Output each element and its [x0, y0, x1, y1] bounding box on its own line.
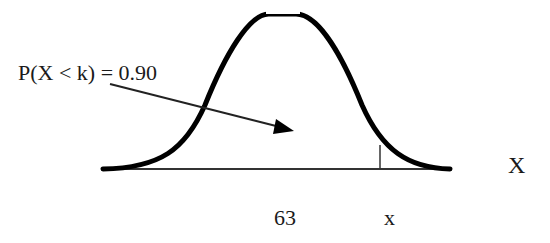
mean-tick-label: 63 — [274, 205, 296, 231]
k-tick-label: x — [384, 205, 395, 231]
probability-annotation: P(X < k) = 0.90 — [18, 60, 157, 86]
axis-label: X — [508, 152, 525, 179]
bell-curve — [103, 14, 450, 169]
arrow-head-icon — [273, 119, 294, 134]
